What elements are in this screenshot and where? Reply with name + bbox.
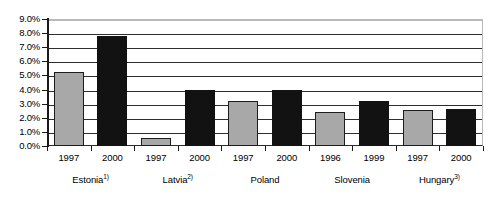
x-axis-group-label-poland: Poland xyxy=(221,174,308,186)
y-axis-tick-label: 6.0% xyxy=(0,56,40,66)
x-axis-year-label: 1997 xyxy=(396,152,440,164)
x-axis-year-label: 2000 xyxy=(439,152,483,164)
y-tick-mark xyxy=(42,118,47,119)
footnote-marker: 3) xyxy=(454,173,460,180)
y-tick-mark xyxy=(42,47,47,48)
x-tick-mark xyxy=(134,146,135,151)
x-axis-group-label-latvia: Latvia2) xyxy=(134,174,221,186)
x-axis-year-label: 1997 xyxy=(134,152,178,164)
y-tick-mark xyxy=(42,90,47,91)
gridline-9.0% xyxy=(47,20,482,21)
x-axis-group-label-estonia: Estonia1) xyxy=(47,174,134,186)
x-tick-mark xyxy=(439,146,440,151)
bar-slovenia-1996 xyxy=(315,112,345,146)
bar-latvia-1997 xyxy=(141,138,171,146)
y-axis-tick-label: 8.0% xyxy=(0,28,40,38)
x-tick-mark xyxy=(91,146,92,151)
x-tick-mark xyxy=(396,146,397,151)
footnote-marker: 1) xyxy=(103,173,109,180)
x-tick-mark xyxy=(221,146,222,151)
y-axis-tick-label: 4.0% xyxy=(0,85,40,95)
y-tick-mark xyxy=(42,19,47,20)
bar-hungary-2000 xyxy=(446,109,476,146)
bar-hungary-1997 xyxy=(403,110,433,146)
x-axis-year-label: 2000 xyxy=(178,152,222,164)
bar-poland-1997 xyxy=(228,101,258,146)
y-axis-tick-label: 3.0% xyxy=(0,99,40,109)
y-tick-mark xyxy=(42,132,47,133)
bar-slovenia-1999 xyxy=(359,101,389,146)
y-axis-tick-label: 7.0% xyxy=(0,42,40,52)
y-axis-tick-label: 1.0% xyxy=(0,127,40,137)
y-axis-tick-label: 0.0% xyxy=(0,141,40,151)
x-axis-group-label-slovenia: Slovenia xyxy=(309,174,396,186)
x-axis-group-label-hungary: Hungary3) xyxy=(396,174,483,186)
x-axis-year-label: 1997 xyxy=(221,152,265,164)
bar-poland-2000 xyxy=(272,90,302,146)
x-tick-mark xyxy=(178,146,179,151)
x-tick-mark xyxy=(265,146,266,151)
y-axis-tick-label: 9.0% xyxy=(0,14,40,24)
bar-chart: 9.0%8.0%7.0%6.0%5.0%4.0%3.0%2.0%1.0%0.0%… xyxy=(0,0,501,208)
x-tick-mark xyxy=(47,146,48,151)
x-tick-mark xyxy=(309,146,310,151)
x-axis-year-label: 1997 xyxy=(47,152,91,164)
bar-estonia-2000 xyxy=(97,36,127,146)
y-tick-mark xyxy=(42,61,47,62)
y-axis-tick-label: 5.0% xyxy=(0,70,40,80)
x-axis-year-label: 1999 xyxy=(352,152,396,164)
y-axis-line xyxy=(47,18,49,147)
y-tick-mark xyxy=(42,75,47,76)
x-axis-year-label: 2000 xyxy=(265,152,309,164)
x-tick-mark xyxy=(352,146,353,151)
x-axis-year-label: 2000 xyxy=(91,152,135,164)
x-tick-mark xyxy=(483,146,484,151)
bar-latvia-2000 xyxy=(185,90,215,146)
footnote-marker: 2) xyxy=(187,173,193,180)
bar-estonia-1997 xyxy=(54,72,84,146)
y-tick-mark xyxy=(42,104,47,105)
y-axis-tick-label: 2.0% xyxy=(0,113,40,123)
x-axis-year-label: 1996 xyxy=(309,152,353,164)
y-tick-mark xyxy=(42,33,47,34)
